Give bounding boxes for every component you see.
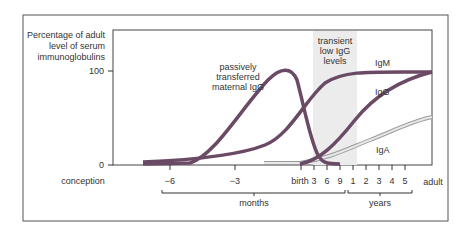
y-tick-100: 100 [89,66,104,76]
x-tick-3m: 3 [311,176,316,186]
x-tick-minus6: −6 [165,176,175,186]
igg-label: IgG [375,87,390,97]
y-axis-label-line3: immunoglobulins [37,52,105,62]
months-label: months [239,198,269,208]
x-tick-3y: 3 [376,176,381,186]
x-tick-adult: adult [423,177,443,187]
x-tick-9m: 9 [337,176,342,186]
years-label: years [369,198,392,208]
maternal-igg-label-line2: transferred [216,72,260,82]
maternal-igg-label-line1: passively [219,62,257,72]
immunoglobulin-chart: Percentage of adult level of serum immun… [0,0,471,226]
x-tick-2y: 2 [363,176,368,186]
x-tick-conception: conception [61,176,105,186]
maternal-igg-label-line3: maternal IgG [212,82,264,92]
years-bracket [348,190,412,196]
months-bracket [162,190,345,196]
igm-label: IgM [375,58,390,68]
y-axis-label-line1: Percentage of adult [27,30,106,40]
band-label-line2: low IgG [320,46,351,56]
iga-label: IgA [376,145,390,155]
x-tick-birth: birth [291,176,309,186]
x-tick-1y: 1 [350,176,355,186]
x-tick-4y: 4 [389,176,394,186]
band-label-line3: levels [323,56,347,66]
x-tick-marks [170,165,405,170]
x-tick-minus3: −3 [230,176,240,186]
x-tick-6m: 6 [324,176,329,186]
y-tick-0: 0 [99,160,104,170]
x-tick-5y: 5 [402,176,407,186]
y-axis-label-line2: level of serum [49,41,105,51]
band-label-line1: transient [318,36,353,46]
